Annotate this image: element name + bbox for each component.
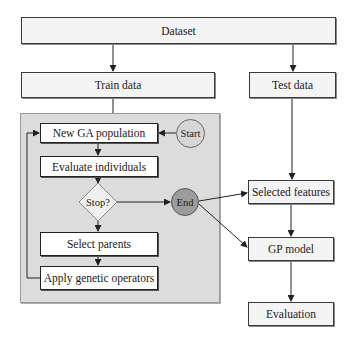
gp-model-label: GP model (268, 243, 314, 255)
start-node: Start (176, 119, 205, 148)
dataset-box: Dataset (21, 17, 336, 44)
selected-features-box: Selected features (248, 180, 334, 204)
new-ga-population-box: New GA population (40, 123, 158, 143)
evaluation-label: Evaluation (266, 308, 316, 320)
test-data-label: Test data (272, 79, 313, 91)
selected-features-label: Selected features (252, 186, 330, 198)
dataset-label: Dataset (161, 25, 195, 37)
evaluate-individuals-label: Evaluate individuals (52, 161, 146, 173)
test-data-box: Test data (249, 72, 336, 98)
stop-label-wrap: Stop? (79, 192, 117, 212)
apply-genetic-operators-label: Apply genetic operators (44, 272, 155, 284)
select-parents-box: Select parents (40, 232, 158, 256)
train-data-label: Train data (95, 79, 142, 91)
evaluate-individuals-box: Evaluate individuals (40, 156, 158, 177)
train-data-box: Train data (21, 72, 215, 98)
end-label: End (177, 197, 194, 208)
start-label: Start (181, 128, 201, 139)
evaluation-box: Evaluation (248, 302, 334, 326)
select-parents-label: Select parents (67, 238, 131, 250)
gp-model-box: GP model (248, 237, 334, 261)
apply-genetic-operators-box: Apply genetic operators (40, 266, 158, 290)
stop-label: Stop? (86, 197, 110, 208)
new-ga-population-label: New GA population (53, 127, 146, 139)
end-node: End (171, 188, 199, 216)
